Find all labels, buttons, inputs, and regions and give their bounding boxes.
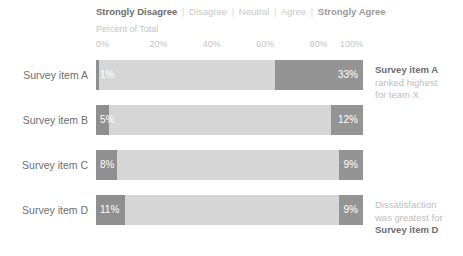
bar-track[interactable]: 8%9%: [96, 150, 363, 180]
bar-value-left-3: 8%: [100, 150, 114, 180]
annotation-d-line2: was greatest for: [375, 212, 443, 223]
annotation-d-line1: Dissatisfaction: [375, 199, 436, 210]
annotation-a-line3: for team X: [375, 89, 419, 100]
bar-value-right-4: 9%: [344, 195, 358, 225]
bar-value-left-1: 1%: [100, 60, 114, 90]
annotation-a-line2: ranked highest: [375, 77, 437, 88]
bar-value-left-2: 5%: [100, 105, 114, 135]
annotation-survey-item-d: Dissatisfaction was greatest for Survey …: [375, 199, 463, 237]
row-label-4: Survey item D: [0, 195, 88, 225]
bar-segment-strongly-disagree[interactable]: [96, 60, 99, 90]
annotation-d-strong: Survey item D: [375, 224, 438, 235]
annotation-a-strong: Survey item A: [375, 64, 438, 75]
bar-value-right-3: 9%: [344, 150, 358, 180]
chart-row: Survey item C8%9%: [0, 150, 463, 180]
bar-value-right-1: 33%: [338, 60, 358, 90]
bar-value-left-4: 11%: [100, 195, 119, 225]
row-label-2: Survey item B: [0, 105, 88, 135]
bar-track[interactable]: 5%12%: [96, 105, 363, 135]
row-label-3: Survey item C: [0, 150, 88, 180]
chart-row: Survey item B5%12%: [0, 105, 463, 135]
row-label-1: Survey item A: [0, 60, 88, 90]
bar-track[interactable]: 11%9%: [96, 195, 363, 225]
annotation-survey-item-a: Survey item A ranked highest for team X: [375, 64, 463, 102]
bar-track[interactable]: 1%33%: [96, 60, 363, 90]
bar-value-right-2: 12%: [338, 105, 358, 135]
